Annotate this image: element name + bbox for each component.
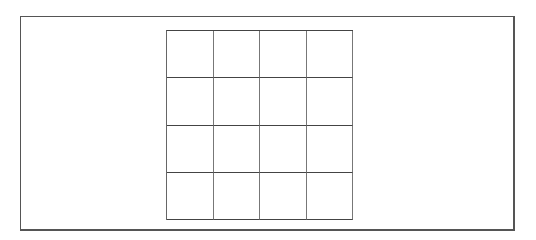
grid-cell[interactable] — [260, 126, 307, 173]
grid-cell[interactable] — [307, 31, 354, 78]
grid-cell[interactable] — [307, 173, 354, 220]
grid-cell[interactable] — [214, 31, 261, 78]
grid-cell[interactable] — [167, 31, 214, 78]
grid-cell[interactable] — [167, 78, 214, 125]
grid-cell[interactable] — [260, 78, 307, 125]
grid-cell[interactable] — [307, 126, 354, 173]
grid-cell[interactable] — [167, 173, 214, 220]
grid-board — [166, 30, 353, 220]
grid-cell[interactable] — [260, 31, 307, 78]
grid-cell[interactable] — [214, 126, 261, 173]
grid-cell[interactable] — [214, 78, 261, 125]
grid-cell[interactable] — [307, 78, 354, 125]
grid-cell[interactable] — [167, 126, 214, 173]
grid-cell[interactable] — [260, 173, 307, 220]
grid-cell[interactable] — [214, 173, 261, 220]
